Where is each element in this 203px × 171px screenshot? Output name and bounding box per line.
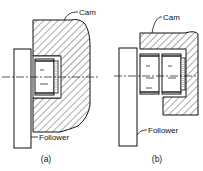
roller-b-1 [140, 54, 159, 94]
cam-leader-b [152, 17, 162, 33]
follower-label-b: Follower [148, 126, 179, 135]
follower-a [14, 49, 31, 148]
caption-a: (a) [41, 154, 52, 164]
cam-follower-diagram: Cam Follower (a) [0, 0, 203, 171]
panel-a: Cam Follower (a) [2, 8, 98, 164]
cam-label-b: Cam [163, 13, 180, 22]
follower-label-a: Follower [39, 133, 70, 142]
follower-b [119, 48, 137, 146]
roller-b-2 [162, 54, 185, 94]
cam-label-a: Cam [79, 8, 96, 17]
cam-leader-a [64, 12, 78, 20]
follower-leader-b [137, 130, 147, 135]
panel-b: Cam Follower (b) [114, 13, 198, 164]
caption-b: (b) [152, 154, 163, 164]
